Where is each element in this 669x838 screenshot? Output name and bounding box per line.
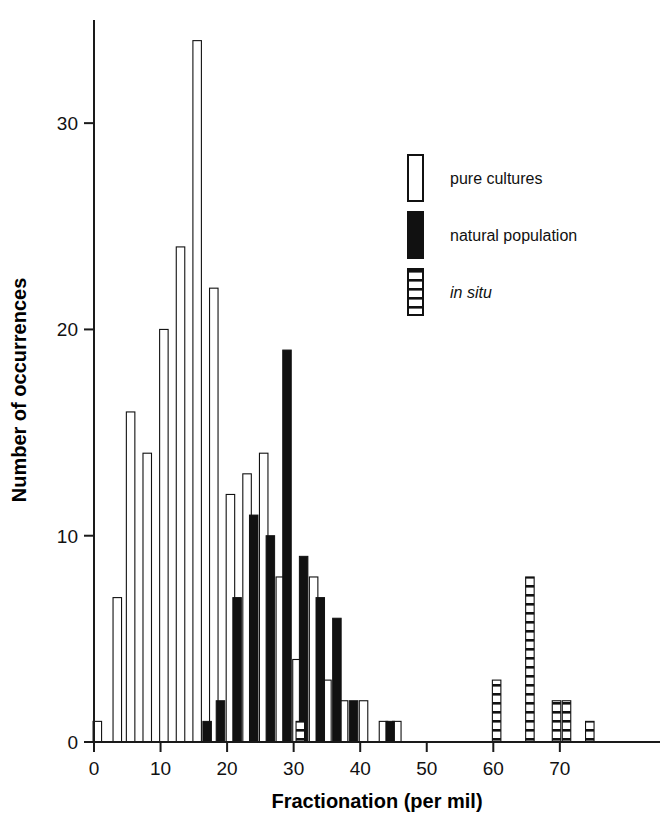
bar xyxy=(552,701,561,742)
series-pure-cultures xyxy=(93,41,401,742)
bar xyxy=(492,680,501,742)
bar xyxy=(160,329,169,742)
bar xyxy=(176,247,185,742)
legend-label-pure-cultures: pure cultures xyxy=(450,170,543,187)
bar xyxy=(283,350,292,742)
y-tick-label-20: 20 xyxy=(57,319,78,340)
x-tick-label-0: 0 xyxy=(89,758,100,779)
y-tick-label-30: 30 xyxy=(57,113,78,134)
y-tick-label-0: 0 xyxy=(67,732,78,753)
legend-label-in-situ: in situ xyxy=(450,284,492,301)
bar xyxy=(233,598,242,742)
x-tick-label-50: 50 xyxy=(416,758,437,779)
plot-area xyxy=(93,41,594,742)
bar xyxy=(299,556,308,742)
bar xyxy=(526,577,535,742)
bar xyxy=(203,721,212,742)
bar xyxy=(216,701,225,742)
x-tick-label-70: 70 xyxy=(549,758,570,779)
bar xyxy=(359,701,368,742)
bar xyxy=(296,721,305,742)
legend-label-natural-population: natural population xyxy=(450,227,577,244)
bar xyxy=(113,598,122,742)
x-axis-ticks: 010203040506070 xyxy=(89,742,571,779)
bar xyxy=(210,288,219,742)
y-axis-ticks: 0102030 xyxy=(57,113,94,753)
legend-swatch-open xyxy=(408,155,423,201)
x-tick-label-30: 30 xyxy=(283,758,304,779)
chart-figure: 0102030 010203040506070 Fractionation (p… xyxy=(0,0,669,838)
bar xyxy=(586,721,595,742)
x-axis-title: Fractionation (per mil) xyxy=(271,790,482,812)
x-tick-label-60: 60 xyxy=(483,758,504,779)
histogram-chart: 0102030 010203040506070 Fractionation (p… xyxy=(0,0,669,838)
bar xyxy=(126,412,135,742)
legend-swatch-hatched xyxy=(408,269,423,315)
bar xyxy=(249,515,258,742)
x-tick-label-10: 10 xyxy=(150,758,171,779)
x-tick-label-20: 20 xyxy=(217,758,238,779)
bar xyxy=(386,721,395,742)
y-axis-title: Number of occurrences xyxy=(8,278,30,503)
bar xyxy=(143,453,152,742)
bar xyxy=(316,598,325,742)
bar xyxy=(333,618,342,742)
bar xyxy=(193,41,202,742)
legend-swatch-solid xyxy=(408,212,423,258)
bar xyxy=(266,536,275,742)
bar xyxy=(349,701,358,742)
x-tick-label-40: 40 xyxy=(350,758,371,779)
bar xyxy=(562,701,571,742)
y-tick-label-10: 10 xyxy=(57,526,78,547)
chart-legend: pure culturesnatural populationin situ xyxy=(408,155,577,315)
